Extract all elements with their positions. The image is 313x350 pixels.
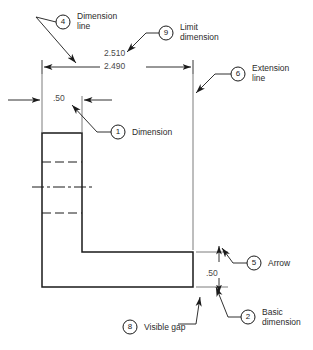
callout-4-label: Dimension line [77, 11, 117, 31]
limit-dimension-upper: 2.510 [104, 48, 125, 58]
callout-1-leader-line [72, 105, 111, 132]
callout-5-label: Arrow [268, 258, 290, 268]
callout-2-leader-line [216, 287, 241, 317]
callout-6-label: Extension line [252, 63, 289, 83]
part-outline [42, 133, 193, 287]
callout-1-label: Dimension [132, 127, 172, 137]
callout-6-number: 6 [231, 67, 245, 81]
callout-9-leader-line [127, 33, 159, 52]
overall-dimension-group [42, 60, 193, 250]
thickness-dimension-value: .50 [206, 268, 218, 278]
drawing-canvas: 4 9 6 1 5 2 8 Dimension line Limit dimen… [0, 0, 313, 350]
width-dimension-value: .50 [53, 93, 65, 103]
callout-4-leader-left [36, 17, 56, 22]
callout-9-label: Limit dimension [180, 22, 219, 42]
part-outline-path [42, 133, 193, 287]
callout-4-number: 4 [56, 15, 70, 29]
limit-dimension-lower: 2.490 [104, 61, 125, 71]
callout-8-leader-line [178, 297, 200, 324]
callout-6-leader-line [196, 74, 231, 93]
callout-2-number: 2 [241, 310, 255, 324]
technical-drawing-svg [0, 0, 313, 350]
callout-8-number: 8 [123, 320, 137, 334]
callout-9-number: 9 [159, 26, 173, 40]
callout-5-number: 5 [247, 256, 261, 270]
callout-8-label: Visible gap [144, 322, 185, 332]
callout-5-leader-line [222, 248, 247, 263]
callout-1-number: 1 [111, 125, 125, 139]
callout-2-label: Basic dimension [262, 307, 301, 327]
